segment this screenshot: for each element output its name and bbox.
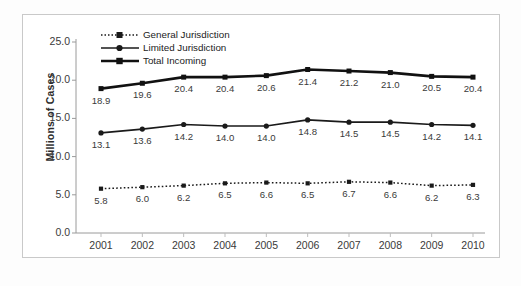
legend-key-solid-square-icon — [101, 55, 139, 67]
y-axis-tick-label: 5.0 — [36, 188, 70, 200]
data-point-label: 6.7 — [332, 188, 366, 199]
legend-key-solid-circle-icon — [101, 42, 139, 54]
data-point-label: 14.5 — [332, 128, 366, 139]
data-point-label: 6.2 — [167, 192, 201, 203]
y-axis-tick-label: 0.0 — [36, 226, 70, 238]
data-point-label: 20.4 — [208, 83, 242, 94]
data-point-label: 13.1 — [84, 139, 118, 150]
data-point-label: 14.0 — [208, 132, 242, 143]
data-point-label: 21.4 — [291, 76, 325, 87]
data-point-label: 18.9 — [84, 95, 118, 106]
data-point-label: 6.3 — [456, 191, 490, 202]
legend-item-limited-jurisdiction: Limited Jurisdiction — [101, 42, 230, 54]
x-axis-tick-label: 2007 — [329, 239, 369, 251]
data-point-label: 20.4 — [167, 83, 201, 94]
data-point-label: 14.5 — [373, 128, 407, 139]
data-point-label: 6.6 — [249, 189, 283, 200]
data-point-label: 14.2 — [415, 131, 449, 142]
x-axis-tick-label: 2002 — [122, 239, 162, 251]
data-point-label: 21.0 — [373, 79, 407, 90]
data-point-label: 6.2 — [415, 192, 449, 203]
chart-figure: Millions of Cases General Jurisdiction L… — [0, 0, 521, 286]
data-point-label: 5.8 — [84, 195, 118, 206]
data-point-label: 6.5 — [291, 189, 325, 200]
data-point-label: 20.4 — [456, 83, 490, 94]
x-axis-tick-label: 2001 — [81, 239, 121, 251]
data-point-label: 19.6 — [125, 89, 159, 100]
x-axis-tick-label: 2010 — [453, 239, 493, 251]
legend-label-limited-jurisdiction: Limited Jurisdiction — [143, 42, 226, 54]
data-point-label: 14.1 — [456, 131, 490, 142]
legend-label-general-jurisdiction: General Jurisdiction — [143, 29, 230, 41]
x-axis-tick-label: 2009 — [412, 239, 452, 251]
legend-label-total-incoming: Total Incoming — [143, 55, 206, 67]
legend-item-total-incoming: Total Incoming — [101, 55, 230, 67]
chart-frame: Millions of Cases General Jurisdiction L… — [22, 14, 500, 258]
legend-key-dotted-square-icon — [101, 29, 139, 41]
data-point-label: 14.8 — [291, 126, 325, 137]
data-point-label: 21.2 — [332, 77, 366, 88]
x-axis-tick-label: 2003 — [164, 239, 204, 251]
x-axis-tick-label: 2006 — [288, 239, 328, 251]
y-axis-tick-label: 10.0 — [36, 150, 70, 162]
x-axis-tick-label: 2004 — [205, 239, 245, 251]
x-axis-tick-label: 2005 — [246, 239, 286, 251]
data-point-label: 20.5 — [415, 82, 449, 93]
y-axis-tick-label: 15.0 — [36, 111, 70, 123]
legend-item-general-jurisdiction: General Jurisdiction — [101, 29, 230, 41]
y-axis-tick-label: 25.0 — [36, 35, 70, 47]
data-point-label: 6.6 — [373, 189, 407, 200]
data-point-label: 6.5 — [208, 189, 242, 200]
x-axis-tick-label: 2008 — [370, 239, 410, 251]
data-point-label: 6.0 — [125, 193, 159, 204]
data-point-label: 20.6 — [249, 82, 283, 93]
data-point-label: 13.6 — [125, 135, 159, 146]
chart-legend: General Jurisdiction Limited Jurisdictio… — [101, 29, 230, 68]
data-point-label: 14.2 — [167, 131, 201, 142]
y-axis-tick-label: 20.0 — [36, 73, 70, 85]
data-point-label: 14.0 — [249, 132, 283, 143]
